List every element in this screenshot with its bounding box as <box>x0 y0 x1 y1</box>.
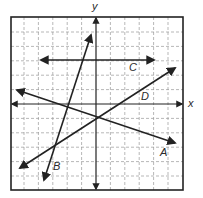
coordinate-plane <box>0 0 203 198</box>
line-d-label: D <box>141 91 149 102</box>
line-a-label: A <box>160 147 167 158</box>
line-b-label: B <box>53 161 60 172</box>
x-axis-label: x <box>188 98 194 109</box>
line-d <box>20 68 175 168</box>
line-c-label: C <box>129 62 137 73</box>
coordinate-plane-diagram: y x A B C D <box>0 0 203 198</box>
y-axis-label: y <box>92 1 98 12</box>
